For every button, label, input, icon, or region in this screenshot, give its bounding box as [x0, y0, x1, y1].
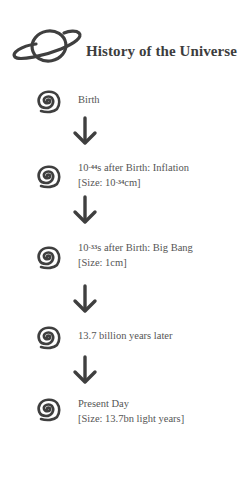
planet-icon: [9, 26, 83, 66]
spiral-icon: [32, 396, 62, 422]
spiral-icon: [32, 244, 62, 270]
down-arrow-icon: [72, 355, 98, 385]
step-label: 10-44s after Birth: Inflation [Size: 10-…: [78, 160, 189, 190]
step-line-1: Present Day: [78, 396, 184, 411]
step-line-1: Birth: [78, 92, 100, 107]
step-label: 13.7 billion years later: [78, 328, 172, 343]
step-label: Birth: [78, 92, 100, 107]
step-line-2: [Size: 13.7bn light years]: [78, 411, 184, 426]
spiral-icon: [32, 88, 62, 114]
spiral-icon: [32, 163, 62, 189]
down-arrow-icon: [72, 195, 98, 225]
step-line-1: 13.7 billion years later: [78, 328, 172, 343]
step-line-1: 10-44s after Birth: Inflation: [78, 160, 189, 175]
spiral-icon: [32, 324, 62, 350]
step-label: Present Day [Size: 13.7bn light years]: [78, 396, 184, 426]
down-arrow-icon: [72, 116, 98, 146]
step-line-1: 10-33s after Birth: Big Bang: [78, 240, 193, 255]
header: History of the Universe: [0, 0, 250, 75]
page-title: History of the Universe: [86, 43, 237, 60]
step-line-2: [Size: 1cm]: [78, 255, 193, 270]
step-label: 10-33s after Birth: Big Bang [Size: 1cm]: [78, 240, 193, 270]
down-arrow-icon: [72, 284, 98, 314]
step-line-2: [Size: 10-34cm]: [78, 175, 189, 190]
